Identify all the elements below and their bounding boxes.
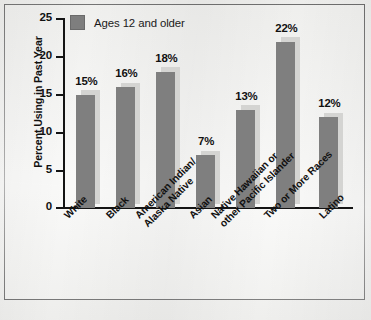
chart-figure: Ages 12 and older Percent Using in Past … (0, 0, 371, 320)
y-tick-label-20-wrap: 20 (22, 49, 52, 63)
y-tick-label-20: 20 (22, 49, 52, 61)
bar-white: 15% (76, 95, 95, 208)
y-tick-label-25-wrap: 25 (22, 11, 52, 25)
y-tick-label-5: 5 (22, 163, 52, 175)
y-tick-5 (56, 170, 64, 172)
bar-white-face (76, 95, 95, 208)
bar-value-two-or-more-races: 22% (275, 22, 297, 34)
legend-swatch-ages-12-and-older (70, 15, 85, 30)
y-tick-label-10: 10 (22, 125, 52, 137)
y-tick-20 (56, 56, 64, 58)
y-tick-label-0: 0 (22, 200, 52, 212)
y-tick-0 (56, 207, 64, 209)
bar-value-latino: 12% (318, 97, 340, 109)
bar-value-native-hawaiian-other-pacific-islander: 13% (235, 90, 257, 102)
y-tick-label-25: 25 (22, 11, 52, 23)
bar-black: 16% (116, 87, 135, 208)
y-tick-label-10-wrap: 10 (22, 125, 52, 139)
bar-black-body (116, 87, 135, 208)
y-tick-25 (56, 18, 64, 20)
y-tick-label-15: 15 (22, 87, 52, 99)
plot-area: Ages 12 and older Percent Using in Past … (0, 0, 371, 320)
bar-black-face (116, 87, 135, 208)
y-tick-label-15-wrap: 15 (22, 87, 52, 101)
chart-legend: Ages 12 and older (70, 15, 185, 30)
legend-label-ages-12-and-older: Ages 12 and older (94, 17, 185, 29)
y-tick-10 (56, 132, 64, 134)
bar-value-american-indian-alaska-native: 18% (155, 52, 177, 64)
y-axis-line (63, 18, 65, 209)
bar-white-body (76, 95, 95, 208)
bar-value-black: 16% (115, 67, 137, 79)
y-tick-label-5-wrap: 5 (22, 163, 52, 177)
y-tick-15 (56, 94, 64, 96)
y-tick-label-0-wrap: 0 (22, 200, 52, 214)
bar-value-white: 15% (75, 75, 97, 87)
bar-value-asian: 7% (198, 135, 214, 147)
